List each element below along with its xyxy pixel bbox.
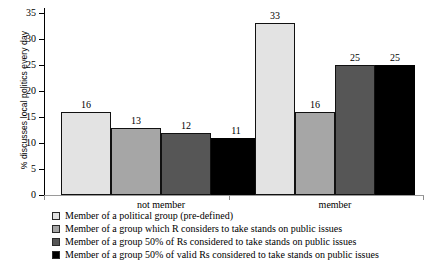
bar-g0-s1[interactable]	[111, 128, 161, 195]
y-tick-label-25: 25	[0, 60, 36, 70]
x-tick-separator	[229, 196, 230, 200]
bar-value-g1-s2: 25	[335, 53, 375, 63]
x-tick-end	[423, 196, 424, 200]
legend-label-3: Member of a group 50% of valid Rs consid…	[65, 249, 379, 260]
bar-value-g1-s1: 16	[295, 100, 335, 110]
y-tick-label-10: 10	[0, 138, 36, 148]
legend-label-2: Member of a group 50% of Rs considered t…	[65, 236, 356, 247]
bar-value-g0-s2: 12	[161, 121, 211, 131]
legend-item-0[interactable]: Member of a political group (pre-defined…	[52, 209, 379, 222]
chart-container: % discusses local politics every day 0 5…	[0, 0, 434, 264]
y-tick-20	[39, 91, 44, 92]
bar-g0-s0[interactable]	[61, 112, 111, 195]
legend-swatch-0	[52, 212, 60, 220]
legend-label-1: Member of a group which R considers to t…	[65, 223, 342, 234]
y-tick-label-20: 20	[0, 86, 36, 96]
bar-g1-s3[interactable]	[375, 65, 415, 195]
legend-item-1[interactable]: Member of a group which R considers to t…	[52, 222, 379, 235]
bar-value-g0-s3: 11	[211, 126, 261, 136]
legend-item-2[interactable]: Member of a group 50% of Rs considered t…	[52, 235, 379, 248]
y-tick-label-35: 35	[0, 8, 36, 18]
y-tick-15	[39, 117, 44, 118]
bar-value-g0-s0: 16	[61, 100, 111, 110]
chart-legend: Member of a political group (pre-defined…	[52, 209, 379, 261]
y-tick-label-5: 5	[0, 164, 36, 174]
y-tick-30	[39, 39, 44, 40]
bar-g0-s2[interactable]	[161, 133, 211, 195]
bar-value-g1-s0: 33	[255, 11, 295, 21]
y-axis-line	[44, 8, 45, 196]
legend-item-3[interactable]: Member of a group 50% of valid Rs consid…	[52, 248, 379, 261]
x-axis-line	[44, 195, 424, 196]
legend-swatch-2	[52, 238, 60, 246]
bar-value-g0-s1: 13	[111, 116, 161, 126]
bar-g1-s0[interactable]	[255, 23, 295, 195]
bar-g0-s3[interactable]	[211, 138, 261, 195]
y-tick-25	[39, 65, 44, 66]
legend-label-0: Member of a political group (pre-defined…	[65, 210, 233, 221]
x-tick-start	[44, 196, 45, 200]
bar-g1-s1[interactable]	[295, 112, 335, 195]
y-tick-label-30: 30	[0, 34, 36, 44]
y-tick-label-0: 0	[0, 190, 36, 200]
legend-swatch-1	[52, 225, 60, 233]
y-tick-5	[39, 169, 44, 170]
y-tick-label-15: 15	[0, 112, 36, 122]
y-tick-10	[39, 143, 44, 144]
bar-value-g1-s3: 25	[375, 53, 415, 63]
legend-swatch-3	[52, 251, 60, 259]
bar-g1-s2[interactable]	[335, 65, 375, 195]
y-tick-35	[39, 13, 44, 14]
